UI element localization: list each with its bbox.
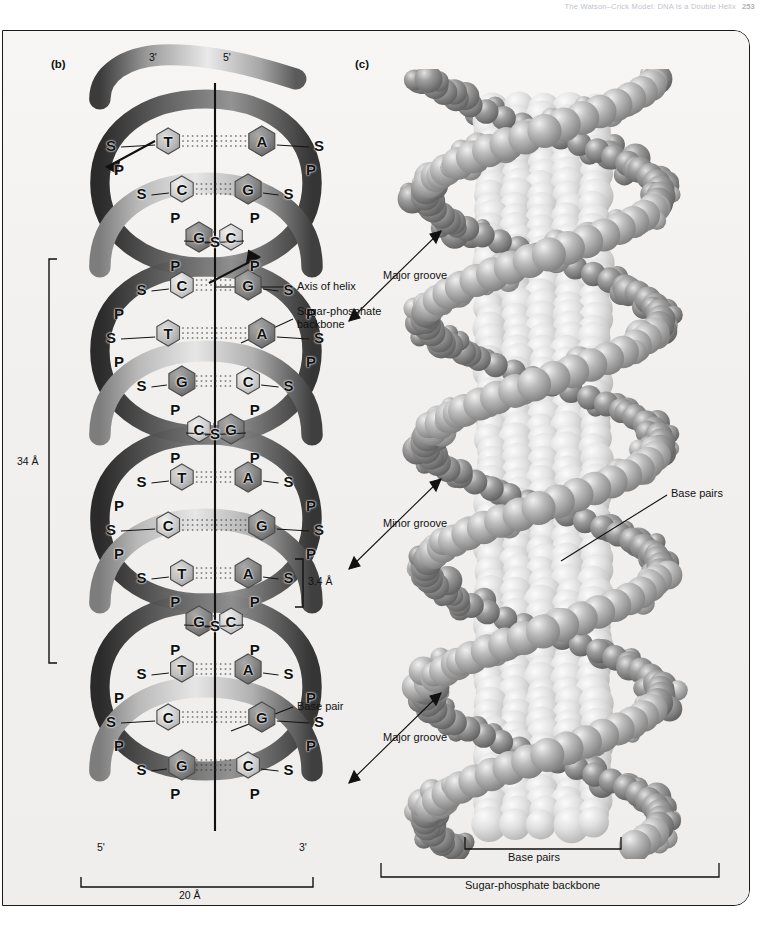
base-letter-t: T <box>177 661 186 678</box>
backbone-phosphate: P <box>170 449 180 466</box>
backbone-sugar: S <box>314 521 324 538</box>
model-atom <box>526 615 560 649</box>
backbone-sugar: S <box>284 761 294 778</box>
panel-label-b: (b) <box>51 58 66 70</box>
running-head: The Watson–Crick Model: DNA Is a Double … <box>565 2 755 11</box>
strand-end-top-left: 3' <box>149 51 157 63</box>
base-letter-g: G <box>176 757 188 774</box>
callout-base-pair: Base pair <box>297 700 343 713</box>
strand-end-bottom-right: 3' <box>299 841 307 853</box>
backbone-phosphate: P <box>306 737 316 754</box>
running-head-title: The Watson–Crick Model: DNA Is a Double … <box>565 2 736 11</box>
base-letter-a: A <box>243 565 254 582</box>
model-atom <box>532 238 566 272</box>
base-letter-t: T <box>177 565 186 582</box>
base-letter-g: G <box>256 517 268 534</box>
backbone-sugar: S <box>314 713 324 730</box>
base-letter-c: C <box>243 757 254 774</box>
backbone-sugar: S <box>284 473 294 490</box>
base-letter-t: T <box>164 133 173 150</box>
bracket-label-sugar-phosphate-backbone: Sugar-phosphate backbone <box>465 879 600 892</box>
backbone-phosphate: P <box>114 689 124 706</box>
backbone-phosphate: P <box>170 593 180 610</box>
backbone-sugar: S <box>106 329 116 346</box>
base-letter-g: G <box>193 613 205 630</box>
backbone-sugar: S <box>106 713 116 730</box>
backbone-phosphate: P <box>114 545 124 562</box>
base-letter-g: G <box>242 277 254 294</box>
backbone-sugar: S <box>136 665 146 682</box>
base-letter-c: C <box>194 421 205 438</box>
strand-end-bottom-left: 5' <box>97 841 105 853</box>
base-letter-g: G <box>193 229 205 246</box>
backbone-phosphate: P <box>114 353 124 370</box>
figure-page: The Watson–Crick Model: DNA Is a Double … <box>0 0 773 938</box>
base-letter-g: G <box>225 421 237 438</box>
figure-frame: (b) (c) <box>2 30 750 906</box>
base-letter-c: C <box>176 277 187 294</box>
backbone-sugar: S <box>314 137 324 154</box>
base-letter-a: A <box>256 133 267 150</box>
callout-minor-groove: Minor groove <box>383 517 447 530</box>
backbone-sugar: S <box>136 569 146 586</box>
backbone-sugar: S <box>284 665 294 682</box>
running-head-page-number: 253 <box>742 2 755 11</box>
backbone-sugar: S <box>136 185 146 202</box>
callout-major-groove-lower: Major groove <box>383 731 447 744</box>
backbone-sugar: S <box>284 185 294 202</box>
backbone-phosphate: P <box>306 353 316 370</box>
bracket-label-base-pairs: Base pairs <box>508 851 560 864</box>
base-letter-a: A <box>243 661 254 678</box>
base-letter-g: G <box>256 709 268 726</box>
backbone-phosphate: P <box>170 785 180 802</box>
base-letter-g: G <box>176 373 188 390</box>
base-letter-c: C <box>163 517 174 534</box>
backbone-phosphate: P <box>170 209 180 226</box>
backbone-sugar: S <box>210 233 220 250</box>
backbone-phosphate: P <box>170 401 180 418</box>
callout-major-groove-upper: Major groove <box>383 269 447 282</box>
base-letter-t: T <box>164 325 173 342</box>
base-letter-a: A <box>256 325 267 342</box>
dimension-3point4-angstrom: 3.4 Å <box>308 575 333 587</box>
backbone-phosphate: P <box>250 209 260 226</box>
dimension-20-angstrom: 20 Å <box>179 889 201 901</box>
model-atom <box>530 738 564 772</box>
backbone-phosphate: P <box>306 497 316 514</box>
backbone-sugar: S <box>210 617 220 634</box>
strand-end-top-right: 5' <box>223 51 231 63</box>
backbone-phosphate: P <box>250 593 260 610</box>
backbone-sugar: S <box>284 569 294 586</box>
backbone-sugar: S <box>284 377 294 394</box>
backbone-phosphate: P <box>170 257 180 274</box>
backbone-phosphate: P <box>114 305 124 322</box>
model-atom <box>526 810 556 840</box>
backbone-sugar: S <box>106 521 116 538</box>
backbone-sugar: S <box>136 761 146 778</box>
backbone-phosphate: P <box>250 401 260 418</box>
backbone-sugar: S <box>106 137 116 154</box>
dimension-34-angstrom: 34 Å <box>17 455 39 467</box>
backbone-phosphate: P <box>306 161 316 178</box>
backbone-phosphate: P <box>170 641 180 658</box>
backbone-phosphate: P <box>114 161 124 178</box>
base-letter-c: C <box>243 373 254 390</box>
backbone-phosphate: P <box>250 785 260 802</box>
backbone-sugar: S <box>136 377 146 394</box>
backbone-phosphate: P <box>114 497 124 514</box>
model-atom <box>578 807 609 838</box>
backbone-sugar: S <box>136 473 146 490</box>
backbone-phosphate: P <box>250 257 260 274</box>
model-atom <box>517 368 551 402</box>
base-letter-c: C <box>226 229 237 246</box>
callout-axis-of-helix: Axis of helix <box>297 280 356 293</box>
backbone-sugar: S <box>136 281 146 298</box>
backbone-phosphate: P <box>114 737 124 754</box>
backbone-sugar: S <box>284 281 294 298</box>
base-letter-c: C <box>163 709 174 726</box>
base-letter-c: C <box>176 181 187 198</box>
base-letter-c: C <box>226 613 237 630</box>
base-letter-t: T <box>177 469 186 486</box>
backbone-phosphate: P <box>306 545 316 562</box>
backbone-phosphate: P <box>250 641 260 658</box>
